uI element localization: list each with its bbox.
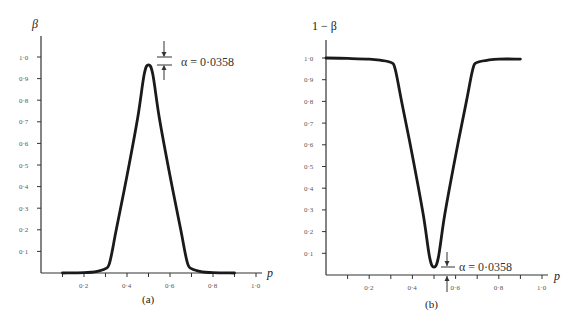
y-axis-title: 1 − β: [312, 19, 337, 33]
x-tick-label: 0·8: [494, 284, 504, 292]
arrow-down-icon: [162, 52, 167, 57]
y-ticks: 0·10·20·30·40·50·60·70·80·91·0: [19, 54, 41, 256]
y-tick-label: 1·0: [304, 55, 314, 63]
alpha-label: α = 0·0358: [459, 260, 512, 274]
y-tick-label: 0·9: [304, 76, 314, 84]
y-tick-label: 0·6: [304, 141, 314, 149]
y-tick-label: 0·4: [304, 185, 314, 193]
panel-label: (b): [425, 298, 438, 311]
panel-label: (a): [142, 293, 155, 306]
y-tick-label: 0·8: [19, 97, 29, 105]
alpha-label: α = 0·0358: [181, 55, 234, 69]
figure: 0·10·20·30·40·50·60·70·80·91·0 0·20·40·6…: [0, 0, 576, 326]
y-tick-label: 0·7: [19, 118, 29, 126]
y-tick-label: 0·4: [19, 183, 29, 191]
y-tick-label: 0·6: [19, 140, 29, 148]
y-tick-label: 0·1: [19, 248, 29, 256]
x-tick-label: 1·0: [537, 284, 547, 292]
beta-curve: [63, 65, 235, 273]
y-tick-label: 0·2: [304, 228, 314, 236]
alpha-annotation: α = 0·0358: [157, 41, 234, 80]
y-tick-label: 0·5: [304, 163, 314, 171]
y-tick-label: 0·5: [19, 162, 29, 170]
x-tick-label: 0·6: [451, 284, 461, 292]
panel-b: 0·10·20·30·40·50·60·70·80·91·0 0·20·40·6…: [304, 19, 560, 311]
panel-a: 0·10·20·30·40·50·60·70·80·91·0 0·20·40·6…: [19, 17, 273, 306]
y-tick-label: 1·0: [19, 54, 29, 62]
y-tick-label: 0·2: [19, 226, 29, 234]
x-tick-label: 0·8: [208, 282, 218, 290]
x-axis-title: p: [553, 269, 560, 283]
y-tick-label: 0·3: [19, 205, 29, 213]
arrow-up-icon: [162, 65, 167, 70]
y-axis-title: β: [31, 17, 38, 31]
x-tick-label: 0·4: [122, 282, 132, 290]
x-tick-label: 0·2: [364, 284, 374, 292]
x-tick-label: 0·2: [79, 282, 89, 290]
x-ticks: 0·20·40·60·81·0: [63, 273, 261, 290]
arrow-down-icon: [445, 261, 450, 266]
x-tick-label: 0·6: [165, 282, 175, 290]
y-tick-label: 0·8: [304, 98, 314, 106]
y-ticks: 0·10·20·30·40·50·60·70·80·91·0: [304, 55, 326, 258]
y-tick-label: 0·7: [304, 120, 314, 128]
arrow-up-icon: [445, 276, 450, 281]
x-axis-title: p: [266, 266, 273, 280]
y-tick-label: 0·1: [304, 250, 314, 258]
power-curve: [326, 58, 520, 267]
x-tick-label: 0·4: [407, 284, 417, 292]
y-tick-label: 0·3: [304, 206, 314, 214]
y-tick-label: 0·9: [19, 75, 29, 83]
x-tick-label: 1·0: [251, 282, 261, 290]
